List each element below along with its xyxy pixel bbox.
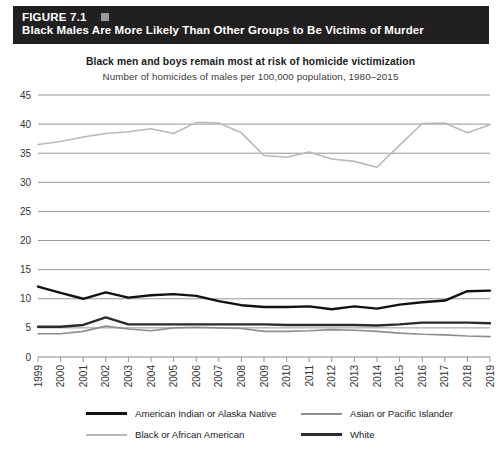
legend-item-black-african-american: Black or African American	[86, 429, 244, 440]
legend-swatch-line-icon	[301, 433, 342, 436]
legend-item-american-indian: American Indian or Alaska Native	[86, 408, 276, 419]
legend-label: White	[350, 429, 375, 440]
y-axis-tick-label: 0	[25, 352, 31, 363]
x-axis-tick-label: 2017	[439, 365, 450, 388]
series-line-3	[38, 317, 490, 326]
x-axis-tick-label: 2014	[372, 365, 383, 388]
y-axis-tick-label: 35	[20, 148, 32, 159]
chart-legend: American Indian or Alaska Native Asian o…	[0, 404, 501, 454]
x-axis-tick-label: 2015	[394, 365, 405, 388]
legend-item-asian-pacific-islander: Asian or Pacific Islander	[301, 408, 453, 419]
y-axis-tick-label: 20	[20, 235, 32, 246]
y-axis-tick-label: 10	[20, 293, 32, 304]
legend-swatch-line-icon	[301, 413, 342, 415]
plot-area: 0510152025303540451999200020012002200320…	[0, 0, 501, 467]
x-axis-tick-label: 2018	[462, 365, 473, 388]
x-axis-tick-label: 2001	[78, 365, 89, 388]
y-axis-tick-label: 30	[20, 177, 32, 188]
x-axis-tick-label: 2009	[259, 365, 270, 388]
x-axis-tick-label: 2013	[349, 365, 360, 388]
legend-label: Asian or Pacific Islander	[350, 408, 453, 419]
x-axis-tick-label: 2011	[304, 365, 315, 387]
series-line-2	[38, 122, 490, 167]
legend-label: Black or African American	[135, 429, 244, 440]
legend-label: American Indian or Alaska Native	[135, 408, 276, 419]
x-axis-tick-label: 2005	[168, 365, 179, 388]
x-axis-tick-label: 2004	[146, 365, 157, 388]
x-axis-tick-label: 2008	[236, 365, 247, 388]
y-axis-tick-label: 25	[20, 206, 32, 217]
x-axis-tick-label: 2006	[191, 365, 202, 388]
x-axis-tick-label: 2007	[213, 365, 224, 388]
legend-swatch-line-icon	[86, 412, 127, 415]
x-axis-tick-label: 2003	[123, 365, 134, 388]
x-axis-tick-label: 2016	[417, 365, 428, 388]
x-axis-tick-label: 2010	[281, 365, 292, 388]
x-axis-tick-label: 1999	[33, 365, 44, 388]
y-axis-tick-label: 45	[20, 90, 32, 101]
figure-container: FIGURE 7.1 Black Males Are More Likely T…	[0, 0, 501, 467]
x-axis-tick-label: 2012	[326, 365, 337, 388]
series-line-0	[38, 287, 490, 310]
x-axis-tick-label: 2000	[55, 365, 66, 388]
y-axis-tick-label: 15	[20, 264, 32, 275]
legend-item-white: White	[301, 429, 375, 440]
legend-swatch-line-icon	[86, 434, 127, 436]
y-axis-tick-label: 40	[20, 119, 32, 130]
x-axis-tick-label: 2019	[485, 365, 496, 388]
y-axis-tick-label: 5	[25, 322, 31, 333]
x-axis-tick-label: 2002	[100, 365, 111, 388]
line-chart: 0510152025303540451999200020012002200320…	[0, 0, 501, 400]
